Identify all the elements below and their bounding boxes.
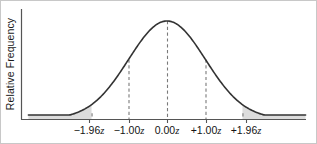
tick-label-z-symbol: z — [216, 125, 221, 136]
normal-distribution-figure: −1.96z−1.00z0.00z+1.00z+1.96z Relative F… — [0, 0, 317, 144]
tick-label-number: −1.96 — [74, 124, 101, 136]
tick-label-number: +1.96 — [231, 124, 258, 136]
tick-label-number: −1.00 — [114, 124, 141, 136]
tick-label-number: +1.00 — [191, 124, 218, 136]
x-axis-tick-label: +1.00z — [191, 124, 222, 136]
tick-label-z-symbol: z — [99, 125, 104, 136]
x-axis-tick-label: −1.00z — [114, 124, 145, 136]
tick-label-number: 0.00 — [155, 124, 176, 136]
plot-canvas: −1.96z−1.00z0.00z+1.00z+1.96z Relative F… — [1, 1, 317, 144]
x-axis-tick-label: +1.96z — [231, 124, 262, 136]
reference-lines-group — [92, 21, 243, 119]
x-axis-tick-labels-group: −1.96z−1.00z0.00z+1.00z+1.96z — [74, 124, 262, 136]
right-tail-shaded-region — [242, 105, 305, 119]
x-axis-tick-label: 0.00z — [155, 124, 180, 136]
tick-label-z-symbol: z — [174, 125, 179, 136]
tick-label-z-symbol: z — [139, 125, 144, 136]
x-axis-tick-label: −1.96z — [74, 124, 105, 136]
tick-label-z-symbol: z — [256, 125, 261, 136]
left-tail-shaded-region — [28, 105, 91, 119]
y-axis-title: Relative Frequency — [4, 17, 16, 110]
